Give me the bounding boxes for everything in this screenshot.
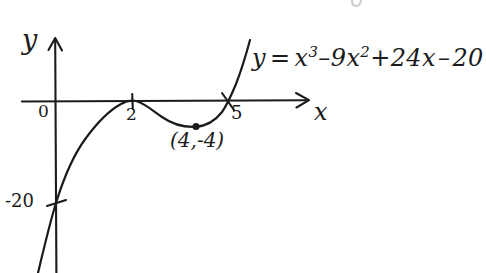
x-axis-line (22, 100, 307, 101)
equation-operator-3: – (438, 44, 450, 72)
graph-canvas: y x 0 2 5 -20 (4,-4) y=x3–9x2+24x–20 (0, 0, 486, 273)
equation-term1-exponent: 3 (308, 43, 318, 61)
origin-label: 0 (38, 103, 49, 120)
equation-term1-base: x (294, 44, 308, 72)
equation-term3: 24x (391, 44, 436, 72)
equation-term2-coefficient: 9 (331, 44, 347, 72)
minimum-point-label: (4,-4) (170, 130, 224, 150)
cubic-curve (38, 40, 250, 273)
x-tick-label-5: 5 (231, 104, 242, 122)
equation-equals: = (270, 44, 291, 72)
y-axis-label: y (22, 26, 37, 53)
x-axis-label: x (314, 100, 328, 124)
equation-label: y=x3–9x2+24x–20 (252, 45, 484, 70)
equation-term2-base: x (346, 44, 360, 72)
equation-lhs: y (252, 44, 266, 72)
graph-drawing (0, 0, 486, 273)
cropped-text-mark (352, 0, 361, 6)
equation-operator-2: + (370, 44, 391, 72)
x-tick-label-2: 2 (126, 106, 137, 123)
equation-term4: 20 (452, 44, 483, 72)
equation-term2-exponent: 2 (360, 43, 370, 61)
y-axis-line (55, 40, 56, 273)
y-tick-label-neg20: -20 (5, 192, 34, 210)
equation-operator-1: – (318, 44, 330, 72)
